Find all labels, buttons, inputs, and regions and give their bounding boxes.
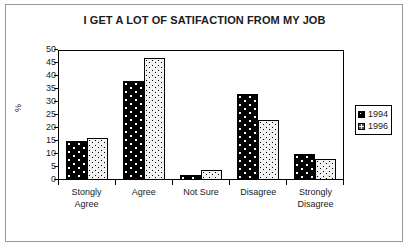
y-tick-label: 45 — [28, 57, 56, 67]
legend-label-1994: 1994 — [368, 109, 388, 119]
chart-title: I GET A LOT OF SATIFACTION FROM MY JOB — [0, 14, 409, 26]
x-label-line: Not Sure — [172, 186, 229, 198]
bar-1994-not-sure[interactable] — [180, 175, 201, 180]
bar-group-strongly-disagree — [287, 50, 344, 180]
x-label-line: Strongly — [287, 186, 344, 198]
chart-legend: 1994 1996 — [355, 105, 392, 135]
y-tick-label: 50 — [28, 44, 56, 54]
x-tick-label-not-sure: Not Sure — [172, 186, 229, 230]
legend-swatch-icon-1996 — [358, 123, 365, 130]
bar-1996-disagree[interactable] — [258, 120, 279, 180]
x-label-line: Disagree — [287, 198, 344, 210]
bar-group-stongly-agree — [58, 50, 115, 180]
bar-1994-strongly-disagree[interactable] — [294, 154, 315, 180]
x-label-line: Agree — [115, 186, 172, 198]
y-tick-label: 10 — [28, 148, 56, 158]
x-label-line: Disagree — [230, 186, 287, 198]
x-label-line: Agree — [58, 198, 115, 210]
y-tick-label: 15 — [28, 135, 56, 145]
x-axis-tick-labels: Stongly Agree Agree Not Sure Disagree St… — [58, 186, 344, 230]
bar-1996-strongly-disagree[interactable] — [315, 159, 336, 180]
x-tick-label-strongly-disagree: Strongly Disagree — [287, 186, 344, 230]
y-tick-label: 20 — [28, 122, 56, 132]
bar-1994-agree[interactable] — [123, 81, 144, 180]
y-tick-label: 25 — [28, 109, 56, 119]
x-tick-label-disagree: Disagree — [230, 186, 287, 230]
bar-group-agree — [115, 50, 172, 180]
y-tick-label: 40 — [28, 70, 56, 80]
bar-series-layer — [58, 50, 344, 180]
legend-item-1994[interactable]: 1994 — [358, 108, 388, 120]
bar-1994-disagree[interactable] — [237, 94, 258, 180]
y-axis-title: % — [13, 104, 23, 112]
legend-item-1996[interactable]: 1996 — [358, 120, 388, 132]
chart-screenshot: I GET A LOT OF SATIFACTION FROM MY JOB %… — [0, 0, 409, 248]
y-axis-tick-labels: 50 45 40 35 30 25 20 15 10 5 0 — [28, 44, 56, 176]
bar-1996-agree[interactable] — [144, 58, 165, 180]
bar-group-disagree — [230, 50, 287, 180]
y-tick-label: 30 — [28, 96, 56, 106]
bar-1996-stongly-agree[interactable] — [87, 138, 108, 180]
legend-label-1996: 1996 — [368, 121, 388, 131]
y-tick-label: 35 — [28, 83, 56, 93]
x-label-line: Stongly — [58, 186, 115, 198]
bar-1994-stongly-agree[interactable] — [66, 141, 87, 180]
x-tick-label-stongly-agree: Stongly Agree — [58, 186, 115, 230]
bar-1996-not-sure[interactable] — [201, 170, 222, 180]
y-tick-label: 0 — [28, 174, 56, 184]
x-tick-label-agree: Agree — [115, 186, 172, 230]
y-tick-label: 5 — [28, 161, 56, 171]
bar-group-not-sure — [172, 50, 229, 180]
legend-swatch-icon-1994 — [358, 111, 365, 118]
